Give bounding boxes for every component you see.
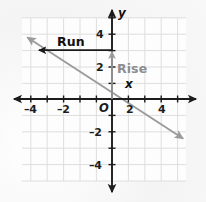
y-tick-label-neg2: –2 [89,127,102,138]
x-axis-label: x [125,78,133,90]
x-tick-label-neg4: –4 [24,104,37,115]
coordinate-graph-figure: x y –4 –2 2 4 O 4 2 –2 –4 Run Rise [0,0,206,202]
y-tick-label-pos4: 4 [96,29,103,40]
x-tick-label-pos2: 2 [126,104,133,115]
x-tick-label-neg2: –2 [57,104,70,115]
y-tick-label-neg4: –4 [89,160,102,171]
y-axis-label: y [118,7,126,19]
x-tick-label-pos4: 4 [158,104,165,115]
run-annotation-label: Run [57,36,85,49]
rise-annotation-label: Rise [117,63,147,76]
y-tick-label-pos2: 2 [96,62,103,73]
origin-label: O [99,103,109,115]
